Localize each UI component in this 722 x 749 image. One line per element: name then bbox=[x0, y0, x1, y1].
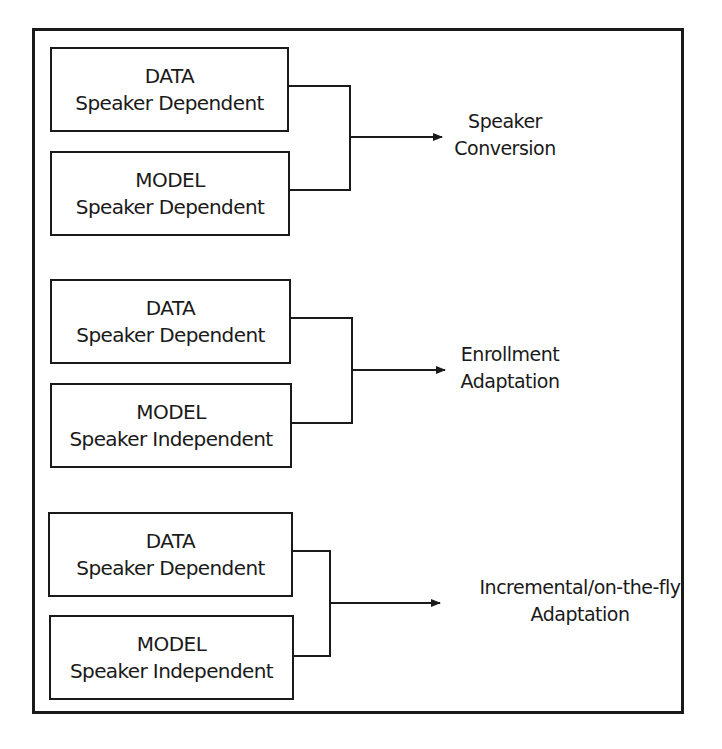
data-box-group-2: DATA Speaker Dependent bbox=[50, 279, 291, 364]
box-subtitle: Speaker Dependent bbox=[76, 194, 264, 221]
box-title: DATA bbox=[145, 63, 195, 90]
box-subtitle: Speaker Independent bbox=[70, 658, 273, 685]
box-title: DATA bbox=[146, 528, 196, 555]
bracket-group-1 bbox=[288, 86, 442, 190]
box-title: DATA bbox=[146, 295, 196, 322]
output-line-2: Adaptation bbox=[461, 368, 560, 395]
output-label-group-3: Incremental/on-the-fly Adaptation bbox=[480, 574, 681, 628]
output-line-1: Enrollment bbox=[461, 341, 560, 368]
data-box-group-1: DATA Speaker Dependent bbox=[50, 47, 289, 132]
box-title: MODEL bbox=[137, 631, 207, 658]
model-box-group-2: MODEL Speaker Independent bbox=[50, 383, 292, 468]
box-title: MODEL bbox=[135, 167, 205, 194]
box-subtitle: Speaker Dependent bbox=[76, 322, 264, 349]
output-line-2: Conversion bbox=[454, 135, 556, 162]
output-line-1: Incremental/on-the-fly bbox=[480, 574, 681, 601]
data-box-group-3: DATA Speaker Dependent bbox=[48, 512, 293, 597]
bracket-group-2 bbox=[290, 318, 445, 423]
output-line-1: Speaker bbox=[454, 108, 556, 135]
output-label-group-1: Speaker Conversion bbox=[454, 108, 556, 162]
box-subtitle: Speaker Dependent bbox=[75, 90, 263, 117]
box-title: MODEL bbox=[136, 399, 206, 426]
bracket-group-3 bbox=[292, 551, 440, 656]
model-box-group-1: MODEL Speaker Dependent bbox=[50, 151, 290, 236]
output-label-group-2: Enrollment Adaptation bbox=[461, 341, 560, 395]
box-subtitle: Speaker Independent bbox=[69, 426, 272, 453]
box-subtitle: Speaker Dependent bbox=[76, 555, 264, 582]
output-line-2: Adaptation bbox=[480, 601, 681, 628]
model-box-group-3: MODEL Speaker Independent bbox=[49, 615, 294, 700]
